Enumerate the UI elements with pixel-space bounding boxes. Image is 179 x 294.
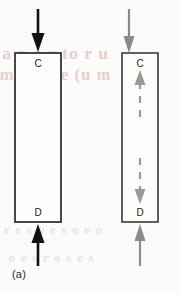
top-load-arrow <box>32 9 45 52</box>
top-load-arrow <box>124 9 135 53</box>
specimen-top-label: C <box>136 58 143 69</box>
specimen-bottom-label: D <box>34 207 41 218</box>
bottom-load-arrow <box>32 224 45 266</box>
specimen-top-label: C <box>34 58 41 69</box>
bottom-load-arrow <box>135 224 146 266</box>
panel-b-graphic: C D <box>89 0 178 294</box>
specimen-rectangle <box>15 53 61 222</box>
panel-a: C D (a) <box>0 0 89 294</box>
panel-a-graphic: C D <box>0 0 89 294</box>
specimen-bottom-label: D <box>136 207 143 218</box>
panel-a-caption: (a) <box>12 268 26 280</box>
panel-b: C D (b) <box>89 0 178 294</box>
figure-container: a p e r to r u m c a s e (u m r e s o e … <box>0 0 179 294</box>
